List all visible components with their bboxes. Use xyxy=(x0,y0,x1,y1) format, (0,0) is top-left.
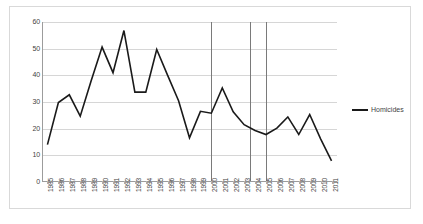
x-tick-2003: 2003 xyxy=(239,184,249,216)
plot-area xyxy=(42,22,337,182)
y-tick-label-50: 50 xyxy=(18,45,40,52)
x-tick-1994: 1994 xyxy=(141,184,151,216)
x-tick-2011: 2011 xyxy=(327,184,337,216)
legend: Homicides xyxy=(352,106,404,114)
legend-label-homicides: Homicides xyxy=(371,106,404,114)
x-tick-1997: 1997 xyxy=(174,184,184,216)
series-homicides xyxy=(42,22,337,182)
x-tick-2007: 2007 xyxy=(283,184,293,216)
x-tick-1995: 1995 xyxy=(152,184,162,216)
y-tick-label-0: 0 xyxy=(18,178,40,185)
x-tick-2000: 2000 xyxy=(206,184,216,216)
x-tick-1999: 1999 xyxy=(195,184,205,216)
x-tick-1987: 1987 xyxy=(64,184,74,216)
x-tick-2001: 2001 xyxy=(217,184,227,216)
y-tick-label-20: 20 xyxy=(18,125,40,132)
x-tick-1986: 1986 xyxy=(53,184,63,216)
x-tick-1988: 1988 xyxy=(75,184,85,216)
x-tick-2002: 2002 xyxy=(228,184,238,216)
y-tick-label-30: 30 xyxy=(18,98,40,105)
x-tick-1990: 1990 xyxy=(97,184,107,216)
x-tick-1985: 1985 xyxy=(42,184,52,216)
y-tick-label-10: 10 xyxy=(18,151,40,158)
x-tick-2010: 2010 xyxy=(316,184,326,216)
series-line-homicides xyxy=(47,31,331,161)
x-axis: 1985198619871988198919901991199219931994… xyxy=(42,184,337,218)
x-tick-2008: 2008 xyxy=(294,184,304,216)
x-tick-2006: 2006 xyxy=(272,184,282,216)
y-tick-label-40: 40 xyxy=(18,71,40,78)
x-tick-2009: 2009 xyxy=(305,184,315,216)
x-tick-1996: 1996 xyxy=(163,184,173,216)
x-tick-1991: 1991 xyxy=(108,184,118,216)
x-tick-label-2011: 2011 xyxy=(332,178,340,192)
x-tick-1993: 1993 xyxy=(130,184,140,216)
legend-swatch-homicides xyxy=(352,109,368,111)
x-tick-1989: 1989 xyxy=(86,184,96,216)
x-tick-2005: 2005 xyxy=(261,184,271,216)
y-axis: 6050403020100 xyxy=(16,22,40,182)
x-tick-2004: 2004 xyxy=(250,184,260,216)
y-tick-label-60: 60 xyxy=(18,18,40,25)
chart-container: 6050403020100 19851986198719881989199019… xyxy=(0,0,423,224)
x-tick-1992: 1992 xyxy=(119,184,129,216)
x-tick-1998: 1998 xyxy=(185,184,195,216)
